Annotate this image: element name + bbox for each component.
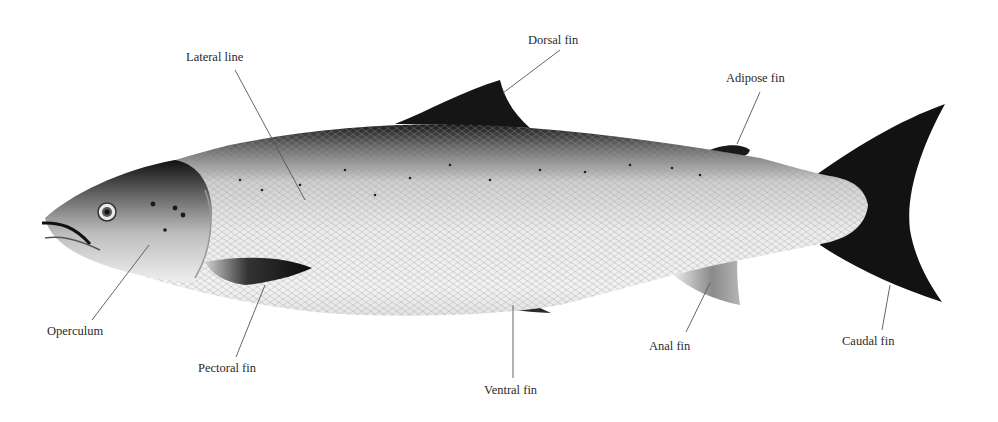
label-dorsal-fin: Dorsal fin [528,34,578,47]
leader-adipose-fin [737,92,760,144]
label-anal-fin: Anal fin [649,340,690,353]
dorsal-fin-shape [395,80,530,128]
salmon-anatomy-diagram: Lateral line Dorsal fin Adipose fin Oper… [0,0,998,422]
label-ventral-fin: Ventral fin [484,384,537,397]
leader-caudal-fin [882,285,890,330]
eye-icon [98,203,116,221]
label-operculum: Operculum [47,325,103,338]
label-caudal-fin: Caudal fin [842,335,894,348]
salmon-illustration [0,0,998,422]
label-adipose-fin: Adipose fin [726,72,785,85]
label-lateral-line: Lateral line [186,51,243,64]
head-shape [45,160,212,282]
label-pectoral-fin: Pectoral fin [198,362,256,375]
leader-dorsal-fin [503,50,560,93]
